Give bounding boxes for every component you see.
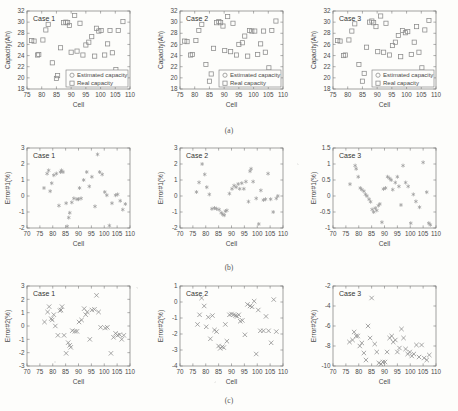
data-point [382, 50, 386, 54]
y-tick-label: -0.5 [320, 208, 331, 215]
y-tick-label: 28 [17, 29, 25, 36]
x-tick-label: 75 [342, 230, 350, 237]
data-point [362, 71, 366, 75]
panel-6: 707580859095100105110-3-2-10123CellError… [0, 274, 149, 410]
y-tick-label: 1.5 [322, 144, 331, 151]
data-point [412, 192, 415, 196]
y-tick-label: 18 [170, 85, 178, 92]
y-tick-label: -10 [321, 362, 331, 369]
y-tick-label: 0 [327, 192, 331, 199]
data-point [118, 199, 121, 203]
row-caption-1: (a) [0, 126, 458, 135]
data-point [409, 221, 412, 225]
data-point [229, 50, 233, 54]
data-point [230, 187, 233, 191]
data-point [108, 28, 112, 32]
y-axis-label: Capacity(Ah) [157, 31, 165, 69]
x-tick-label: 85 [368, 230, 376, 237]
data-point [93, 204, 96, 208]
data-point [93, 54, 97, 58]
data-point [202, 304, 206, 308]
x-tick-label: 95 [235, 91, 243, 98]
data-point [41, 38, 45, 42]
x-tick-label: 110 [125, 230, 136, 237]
y-axis-label: Error#2(%) [310, 310, 318, 342]
panel-title: Case 1 [33, 152, 55, 159]
data-point [420, 66, 424, 70]
data-point [200, 22, 204, 26]
x-tick-label: 75 [36, 230, 44, 237]
panel-wrap-case2-row3: 707580859095100105110-4-3-2-101CellError… [153, 274, 302, 410]
data-point [54, 76, 58, 80]
data-point [204, 62, 208, 66]
x-tick-label: 75 [36, 368, 44, 375]
row-caption-3: (c) [0, 396, 458, 405]
data-point [203, 172, 206, 176]
y-tick-label: 26 [17, 41, 25, 48]
x-tick-label: 110 [278, 368, 289, 375]
x-axis-label: Cell [226, 240, 238, 247]
data-point [401, 336, 405, 340]
data-point [222, 345, 226, 349]
data-point [216, 344, 220, 348]
data-point [60, 304, 64, 308]
data-point [421, 160, 424, 164]
data-point [366, 324, 370, 328]
y-tick-label: -4 [325, 302, 331, 309]
panel-0: 75808590951001051101820222426283032CellC… [0, 0, 149, 135]
data-point [274, 19, 278, 23]
data-point [256, 308, 260, 312]
y-tick-label: 24 [323, 52, 331, 59]
data-point [247, 200, 250, 204]
data-point [223, 48, 227, 52]
y-tick-label: -1 [19, 336, 25, 343]
y-tick-label: -1 [325, 224, 331, 231]
x-tick-label: 80 [202, 230, 210, 237]
x-tick-label: 95 [241, 230, 249, 237]
x-tick-label: 100 [405, 230, 416, 237]
data-point [64, 351, 68, 355]
x-tick-label: 95 [88, 368, 96, 375]
legend-label-estimated: Estimated capacity [230, 72, 280, 78]
x-tick-label: 70 [176, 230, 184, 237]
panel-wrap-case3-row1: 75808590951001051101820222426283032CellC… [306, 0, 455, 135]
data-point [427, 18, 431, 22]
data-point [423, 28, 427, 32]
plot-frame [27, 286, 130, 366]
y-tick-label: -2 [325, 282, 331, 289]
y-tick-label: 22 [170, 63, 178, 70]
data-point [52, 312, 56, 316]
data-point [105, 193, 108, 197]
data-point [197, 313, 201, 317]
panel-wrap-case2-row2: 707580859095100105110-2-10123CellError#1… [153, 137, 302, 272]
x-tick-label: 80 [202, 368, 210, 375]
data-point [90, 175, 93, 179]
data-point [357, 62, 361, 66]
y-axis-label: Error#1(%) [4, 172, 12, 204]
x-tick-label: 80 [191, 91, 199, 98]
y-tick-label: 32 [170, 7, 178, 14]
data-point [96, 152, 99, 156]
panel-wrap-case2-row1: 75808590951001051101820222426283032CellC… [153, 0, 302, 135]
x-axis-label: Cell [226, 378, 238, 385]
data-point [350, 29, 354, 33]
legend-label-real: Real capacity [230, 80, 266, 86]
panel-wrap-case1-row3: 707580859095100105110-3-2-10123CellError… [0, 274, 149, 410]
x-tick-label: 105 [265, 368, 276, 375]
x-tick-label: 90 [381, 230, 389, 237]
y-tick-label: 26 [323, 41, 331, 48]
data-point [194, 38, 198, 42]
y-tick-label: -3 [19, 362, 25, 369]
y-tick-label: -4 [172, 362, 178, 369]
x-tick-label: 105 [263, 91, 274, 98]
figure-container: 75808590951001051101820222426283032CellC… [0, 0, 458, 411]
data-point [352, 330, 356, 334]
data-point [396, 33, 400, 37]
data-point [50, 61, 54, 65]
y-tick-label: 24 [170, 52, 178, 59]
data-point [94, 293, 98, 297]
data-point [200, 162, 203, 166]
data-point [356, 175, 359, 179]
y-tick-label: -3 [172, 346, 178, 353]
y-tick-label: 3 [21, 144, 25, 151]
